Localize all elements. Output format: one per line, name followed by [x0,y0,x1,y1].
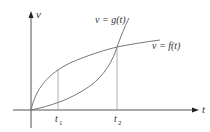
tick-t1: t 1 [55,113,63,127]
svg-text:t: t [55,113,58,124]
svg-text:2: 2 [118,119,122,127]
diagram-canvas: v t v = g(t) v = f(t) t 1 t 2 [0,0,210,132]
svg-text:1: 1 [59,119,63,127]
x-axis-label: t [202,103,206,115]
y-axis-arrow-icon [29,11,34,18]
x-axis-arrow-icon [192,108,199,113]
curve-f-label: v = f(t) [152,40,181,52]
tick-t2: t 2 [114,113,122,127]
y-axis-label: v [36,8,41,20]
svg-text:t: t [114,113,117,124]
curve-g-label: v = g(t) [95,14,126,26]
curve-f [31,40,160,110]
curve-g [31,18,129,110]
